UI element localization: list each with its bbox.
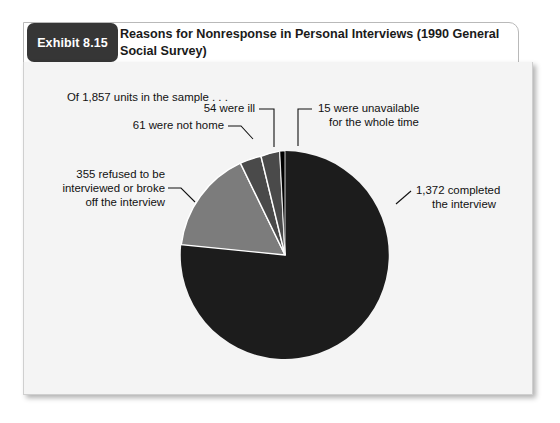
exhibit-number-badge: Exhibit 8.15	[27, 23, 118, 62]
label-refused-line2: interviewed or broke	[28, 181, 165, 195]
exhibit-figure: Exhibit 8.15 Reasons for Nonresponse in …	[0, 0, 560, 423]
label-refused-line3: off the interview	[28, 195, 165, 209]
leader-line-refused	[168, 188, 195, 202]
leader-line-completed	[396, 191, 411, 204]
label-completed: 1,372 completed the interview	[416, 183, 500, 211]
label-completed-line1: 1,372 completed	[416, 183, 500, 197]
label-refused: 355 refused to be interviewed or broke o…	[28, 167, 165, 209]
pie-chart-area: Of 1,857 units in the sample . . . 61 we…	[23, 62, 533, 395]
label-unavailable-line1: 15 were unavailable	[318, 101, 419, 115]
label-not-home: 61 were not home	[78, 118, 224, 132]
label-refused-line1: 355 refused to be	[28, 167, 165, 181]
leader-line-ill	[259, 109, 274, 147]
leader-line-unavailable	[298, 109, 312, 146]
label-ill: 54 were ill	[163, 101, 255, 115]
label-unavailable-line2: for the whole time	[318, 115, 419, 129]
label-completed-line2: the interview	[416, 197, 500, 211]
leader-line-not-home	[228, 126, 253, 139]
label-unavailable: 15 were unavailable for the whole time	[318, 101, 419, 129]
pie-chart-svg	[23, 62, 533, 395]
exhibit-title: Reasons for Nonresponse in Personal Inte…	[120, 26, 510, 59]
exhibit-number-label: Exhibit 8.15	[37, 36, 108, 50]
